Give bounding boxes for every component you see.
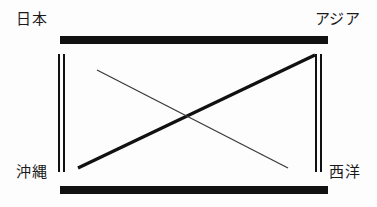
left-rule-stroke-inner [63, 54, 65, 172]
thin-diagonal-japan-to-west [97, 70, 288, 168]
frame-top-bar [60, 36, 328, 44]
label-bottom-right-west: 西洋 [329, 165, 360, 180]
frame-right-double-rule [315, 54, 322, 172]
label-top-left-japan: 日本 [16, 12, 47, 27]
left-rule-stroke-outer [58, 54, 60, 172]
label-bottom-left-okinawa: 沖縄 [16, 165, 47, 180]
frame-left-double-rule [58, 54, 65, 172]
label-top-right-asia: アジア [315, 12, 361, 27]
thick-diagonal-okinawa-to-asia [78, 55, 315, 168]
diagram-canvas: 日本 アジア 沖縄 西洋 [0, 0, 377, 207]
right-rule-stroke-inner [315, 54, 317, 172]
frame-bottom-bar [60, 186, 328, 194]
right-rule-stroke-outer [320, 54, 322, 172]
